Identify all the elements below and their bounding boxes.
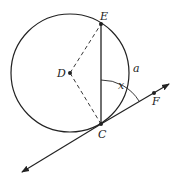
radius-DE xyxy=(70,24,101,73)
label-E: E xyxy=(99,10,108,23)
label-F: F xyxy=(151,95,160,108)
label-angle-x: x xyxy=(118,79,125,92)
label-D: D xyxy=(56,67,66,80)
label-C: C xyxy=(98,128,107,141)
label-arc-a: a xyxy=(133,62,140,75)
circle-tangent-diagram: E D C F a x xyxy=(0,0,178,181)
point-C xyxy=(99,122,103,126)
radius-DC xyxy=(70,73,101,124)
point-D xyxy=(68,71,72,75)
